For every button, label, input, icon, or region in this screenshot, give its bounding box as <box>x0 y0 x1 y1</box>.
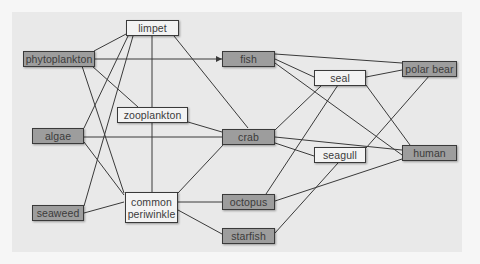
node-polar-bear: polar bear <box>402 61 457 77</box>
edge-octopus-human <box>275 159 402 201</box>
node-phytoplankton: phytoplankton <box>23 51 95 67</box>
edge-fish-seal <box>275 59 314 77</box>
edge-phytoplankton-limpet <box>94 33 128 51</box>
node-algae: algae <box>32 128 84 144</box>
node-label: seal <box>330 72 350 84</box>
node-label: octopus <box>230 196 267 208</box>
node-label: fish <box>240 53 257 65</box>
node-seal: seal <box>314 70 366 86</box>
node-label: seagull <box>323 149 357 161</box>
node-label: algae <box>45 130 71 142</box>
edge-octopus-seal <box>266 85 338 194</box>
edge-crab-seagull <box>275 143 314 156</box>
node-label: seaweed <box>37 207 80 219</box>
node-crab: crab <box>222 129 275 145</box>
node-human: human <box>402 145 457 161</box>
edge-seaweed-periwinkle <box>84 202 124 213</box>
node-common-periwinkle: common periwinkle <box>125 192 178 223</box>
edge-zooplankton-crab <box>188 122 222 132</box>
node-starfish: starfish <box>222 228 275 244</box>
edge-seal-human <box>366 85 410 145</box>
edge-seagull-polarbear <box>366 75 430 148</box>
edge-fish-polarbear <box>275 54 402 63</box>
node-limpet: limpet <box>126 20 179 36</box>
node-octopus: octopus <box>222 194 275 210</box>
node-label: phytoplankton <box>26 53 93 65</box>
node-label: crab <box>238 131 259 143</box>
edge-phytoplankton-periwinkle <box>82 66 124 193</box>
node-label: limpet <box>138 22 167 34</box>
node-seagull: seagull <box>314 147 366 163</box>
node-label-line2: periwinkle <box>128 208 176 220</box>
node-fish: fish <box>222 51 275 67</box>
edge-algae-periwinkle <box>84 142 124 195</box>
node-label: polar bear <box>405 63 453 75</box>
node-label: human <box>413 147 446 159</box>
edge-periwinkle-crab <box>178 144 224 193</box>
edge-crab-seal <box>275 85 322 130</box>
edge-seal-polarbear <box>366 70 402 77</box>
node-label: zooplankton <box>124 109 182 121</box>
node-label: starfish <box>231 230 266 242</box>
node-zooplankton: zooplankton <box>117 107 188 123</box>
edge-phytoplankton-zooplankton <box>92 66 138 107</box>
node-seaweed: seaweed <box>32 205 84 221</box>
node-label-line1: common <box>131 196 172 208</box>
edge-periwinkle-starfish <box>178 210 222 234</box>
